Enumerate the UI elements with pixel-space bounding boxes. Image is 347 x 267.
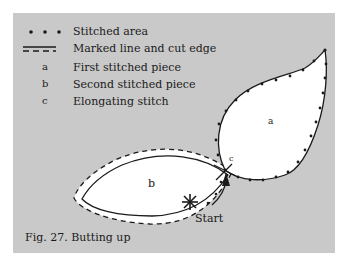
figure-caption: Fig. 27. Butting up — [25, 231, 130, 244]
legend-label: Elongating stitch — [73, 95, 169, 108]
start-star-icon — [182, 194, 198, 210]
butting-up-diagram: a b c Start — [0, 0, 347, 267]
piece-a-label: a — [268, 116, 274, 126]
junction-c-label: c — [229, 154, 234, 163]
legend-dashes-icon — [23, 47, 56, 51]
legend-label: Second stitched piece — [73, 78, 196, 91]
legend-dots-icon — [29, 30, 61, 34]
legend-letter: a — [42, 61, 48, 72]
start-label: Start — [195, 212, 224, 225]
legend-label: Marked line and cut edge — [73, 42, 216, 55]
piece-a-outline — [218, 50, 326, 180]
piece-b-label: b — [148, 177, 155, 190]
legend-letter: c — [42, 95, 48, 106]
legend-letter: b — [42, 78, 48, 89]
legend-label: Stitched area — [73, 25, 148, 38]
legend-label: First stitched piece — [73, 61, 181, 74]
